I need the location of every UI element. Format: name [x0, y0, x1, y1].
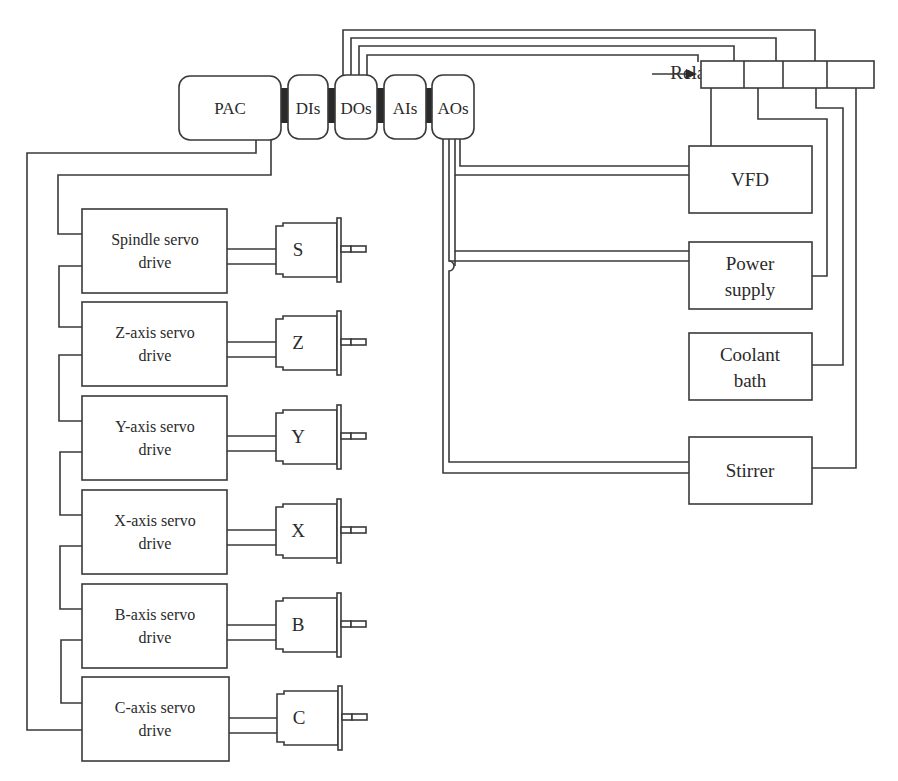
relay-block: [701, 61, 874, 88]
peripheral-stirrer: Stirrer: [689, 437, 812, 504]
coolant-bath-label-1: Coolant: [720, 344, 781, 365]
power-supply-label-1: Power: [726, 253, 775, 274]
ao-wires: [443, 138, 689, 473]
motor-label: Z: [292, 332, 304, 353]
motor-label: X: [291, 520, 305, 541]
drive-label-1: B-axis servo: [115, 606, 195, 623]
power-supply-label-2: supply: [725, 279, 776, 300]
motor-z: Z: [276, 311, 366, 375]
servo-drive-spindle: Spindle servo drive S: [82, 209, 366, 293]
drive-label-2: drive: [139, 254, 172, 271]
pac-label: PAC: [214, 99, 246, 118]
ai-label: AIs: [393, 99, 418, 118]
motor-label: B: [292, 614, 305, 635]
di-label: DIs: [296, 99, 321, 118]
drive-label-1: C-axis servo: [115, 699, 195, 716]
motor-x: X: [276, 499, 366, 563]
controller-rack: PAC DIs DOs AIs AOs: [179, 75, 474, 140]
motor-label: Y: [291, 426, 305, 447]
do-label: DOs: [340, 99, 371, 118]
relay-block-frame: [701, 61, 874, 88]
servo-drive-c-axis: C-axis servo drive C: [82, 677, 367, 761]
control-system-diagram: Relays: [0, 0, 898, 781]
motor-label: S: [293, 239, 304, 260]
stirrer-label: Stirrer: [726, 460, 775, 481]
motor-c: C: [277, 686, 367, 750]
drive-label-2: drive: [139, 629, 172, 646]
motor-spindle: S: [276, 218, 366, 282]
motor-y: Y: [276, 405, 366, 469]
drive-label-1: Y-axis servo: [115, 418, 195, 435]
drive-label-2: drive: [139, 441, 172, 458]
drive-label-1: X-axis servo: [114, 512, 195, 529]
motor-b: B: [276, 593, 366, 657]
coolant-bath-label-2: bath: [734, 370, 767, 391]
drive-label-2: drive: [139, 347, 172, 364]
vfd-label: VFD: [731, 169, 769, 190]
drive-label-1: Spindle servo: [111, 231, 199, 249]
peripheral-power-supply: Power supply: [689, 242, 812, 309]
peripheral-coolant-bath: Coolant bath: [689, 333, 812, 400]
drive-label-2: drive: [139, 535, 172, 552]
servo-drive-x-axis: X-axis servo drive X: [82, 490, 366, 574]
servo-drive-y-axis: Y-axis servo drive Y: [82, 396, 366, 480]
ao-label: AOs: [437, 99, 468, 118]
servo-drive-b-axis: B-axis servo drive B: [82, 584, 366, 668]
servo-drive-z-axis: Z-axis servo drive Z: [82, 302, 366, 386]
drive-label-1: Z-axis servo: [115, 324, 195, 341]
motor-label: C: [293, 707, 306, 728]
drive-label-2: drive: [139, 722, 172, 739]
peripheral-vfd: VFD: [689, 146, 812, 213]
